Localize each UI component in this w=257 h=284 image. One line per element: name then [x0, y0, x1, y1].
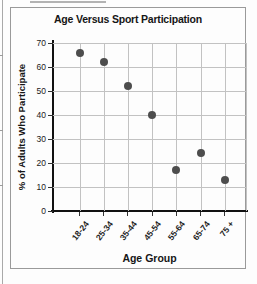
y-tick-label: 50	[25, 86, 46, 97]
y-tick	[48, 163, 53, 164]
y-gridline	[53, 43, 246, 44]
cropped-content-strip	[30, 1, 106, 3]
chart-title: Age Versus Sport Participation	[11, 13, 245, 25]
y-gridline	[53, 139, 246, 140]
y-axis-label: % of Adults Who Participate	[16, 17, 30, 237]
y-gridline	[53, 91, 246, 92]
x-tick	[103, 212, 104, 216]
page-rule-stub	[0, 185, 3, 186]
x-gridline	[225, 43, 226, 211]
page-rule-stub	[0, 130, 3, 131]
page-rule-stub	[0, 55, 3, 56]
y-gridline	[53, 187, 246, 188]
x-tick	[152, 212, 153, 216]
plot-area: 01020304050607018-2425-3435-4445-5455-64…	[53, 43, 246, 211]
y-tick-label: 30	[25, 134, 46, 145]
x-tick	[79, 212, 80, 216]
x-gridline	[80, 43, 81, 211]
y-tick	[48, 67, 53, 68]
x-tick	[127, 212, 128, 216]
data-point	[76, 49, 84, 57]
x-tick	[224, 212, 225, 216]
y-gridline	[53, 163, 246, 164]
x-gridline	[104, 43, 105, 211]
x-tick	[176, 212, 177, 216]
x-axis-line	[51, 210, 248, 212]
data-point	[172, 166, 180, 174]
data-point	[197, 149, 205, 157]
y-tick	[48, 187, 53, 188]
chart-panel: Age Versus Sport Participation % of Adul…	[10, 7, 246, 269]
data-point	[124, 82, 132, 90]
y-tick	[48, 211, 53, 212]
x-gridline	[176, 43, 177, 211]
y-gridline	[53, 67, 246, 68]
plot-right-border	[246, 43, 247, 211]
y-tick	[48, 139, 53, 140]
data-point	[221, 176, 229, 184]
data-point	[148, 111, 156, 119]
y-tick-label: 0	[25, 206, 46, 217]
y-tick-label: 20	[25, 158, 46, 169]
data-point	[100, 58, 108, 66]
y-tick-label: 60	[25, 62, 46, 73]
x-gridline	[128, 43, 129, 211]
x-gridline	[152, 43, 153, 211]
y-tick	[48, 115, 53, 116]
y-tick	[48, 91, 53, 92]
y-tick-label: 40	[25, 110, 46, 121]
page-margin-rule	[2, 0, 3, 284]
x-gridline	[201, 43, 202, 211]
x-axis-label: Age Group	[53, 252, 246, 264]
textbook-page-crop: Age Versus Sport Participation % of Adul…	[0, 0, 257, 284]
y-tick-label: 70	[25, 38, 46, 49]
y-tick-label: 10	[25, 182, 46, 193]
x-tick	[200, 212, 201, 216]
y-tick	[48, 43, 53, 44]
